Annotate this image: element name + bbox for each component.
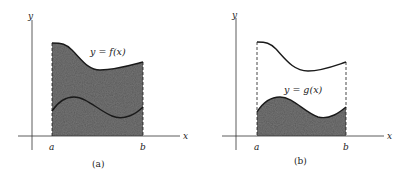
- y-axis-label: y: [231, 10, 238, 20]
- caption-b: (b): [294, 156, 307, 166]
- x-axis-label: x: [387, 131, 392, 141]
- shaded-area-g: [257, 97, 346, 136]
- curve-label-g: y = g(x): [283, 84, 323, 95]
- caption-a: (a): [92, 159, 104, 169]
- panel-a: y x a b y = f(x) (a): [18, 11, 188, 169]
- tick-label-a: a: [254, 142, 259, 152]
- curve-f-outline: [257, 42, 346, 71]
- y-axis-label: y: [27, 11, 34, 21]
- tick-label-b: b: [343, 142, 349, 152]
- figure: y x a b y = f(x) (a) y x a b y = g(x) (b…: [0, 0, 400, 176]
- curve-label-f: y = f(x): [89, 46, 126, 57]
- panel-b: y x a b y = g(x) (b): [222, 10, 392, 166]
- x-axis-label: x: [183, 131, 188, 141]
- tick-label-a: a: [49, 142, 54, 152]
- tick-label-b: b: [140, 142, 146, 152]
